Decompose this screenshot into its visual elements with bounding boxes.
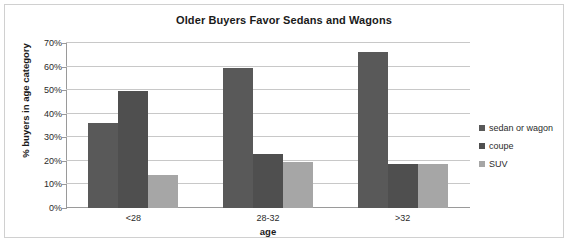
legend-swatch-icon [479,143,485,149]
y-axis-tick-label: 70% [28,38,62,48]
plot-inner [66,43,470,208]
bar[interactable] [148,175,178,208]
legend-item[interactable]: sedan or wagon [479,119,553,137]
y-axis-tick-label: 20% [28,156,62,166]
chart-legend: sedan or wagoncoupeSUV [479,119,553,173]
chart-frame: Older Buyers Favor Sedans and Wagons % b… [4,4,564,238]
bar-group [223,43,313,208]
bar[interactable] [418,164,448,208]
bar[interactable] [88,123,118,208]
plot-area [66,43,470,208]
x-axis-tick-label: >32 [335,213,470,223]
legend-swatch-icon [479,161,485,167]
legend-label: SUV [489,159,508,169]
x-axis-tick-label: <28 [66,213,201,223]
y-axis-tick-labels: 0%10%20%30%40%50%60%70% [24,43,62,209]
legend-swatch-icon [479,125,485,131]
bar[interactable] [118,91,148,208]
legend-item[interactable]: SUV [479,155,553,173]
y-axis-tick-label: 60% [28,62,62,72]
chart-title: Older Buyers Favor Sedans and Wagons [5,14,563,26]
y-axis-tick-label: 40% [28,109,62,119]
bar-group [88,43,178,208]
x-axis-title: age [66,226,470,237]
legend-item[interactable]: coupe [479,137,553,155]
bar-group [358,43,448,208]
legend-label: sedan or wagon [489,123,553,133]
bar[interactable] [253,154,283,208]
x-axis-tick-label: 28-32 [201,213,336,223]
y-axis-tick-label: 50% [28,85,62,95]
y-axis-tick-label: 0% [28,203,62,213]
y-axis-tick-label: 30% [28,132,62,142]
bar[interactable] [388,164,418,208]
bar[interactable] [358,52,388,208]
bar[interactable] [283,162,313,208]
bar[interactable] [223,68,253,208]
y-axis-tick-label: 10% [28,179,62,189]
legend-label: coupe [489,141,514,151]
